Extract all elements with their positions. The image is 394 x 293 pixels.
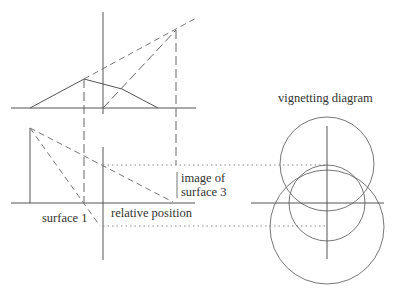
image-of-surface3-label-line2: surface 3 (181, 185, 226, 199)
vignetting-diagram-title: vignetting diagram (278, 91, 373, 105)
image-of-surface3-label-line1: image of (181, 171, 226, 185)
dashed-extension-ray (84, 17, 198, 79)
vignetting-diagram (251, 117, 384, 284)
dashed-ray-axis-to-image (103, 30, 176, 108)
dashed-ray-shallow (30, 128, 173, 202)
lower-ray-diagram (11, 128, 327, 260)
upper-ray-diagram (11, 12, 198, 203)
ray-right-descending (122, 89, 158, 108)
ray-left-to-peak (30, 79, 84, 108)
relative-position-label: relative position (111, 206, 193, 220)
surface1-label: surface 1 (42, 211, 87, 225)
optical-diagram: vignetting diagram image of surface 3 re… (0, 0, 394, 293)
